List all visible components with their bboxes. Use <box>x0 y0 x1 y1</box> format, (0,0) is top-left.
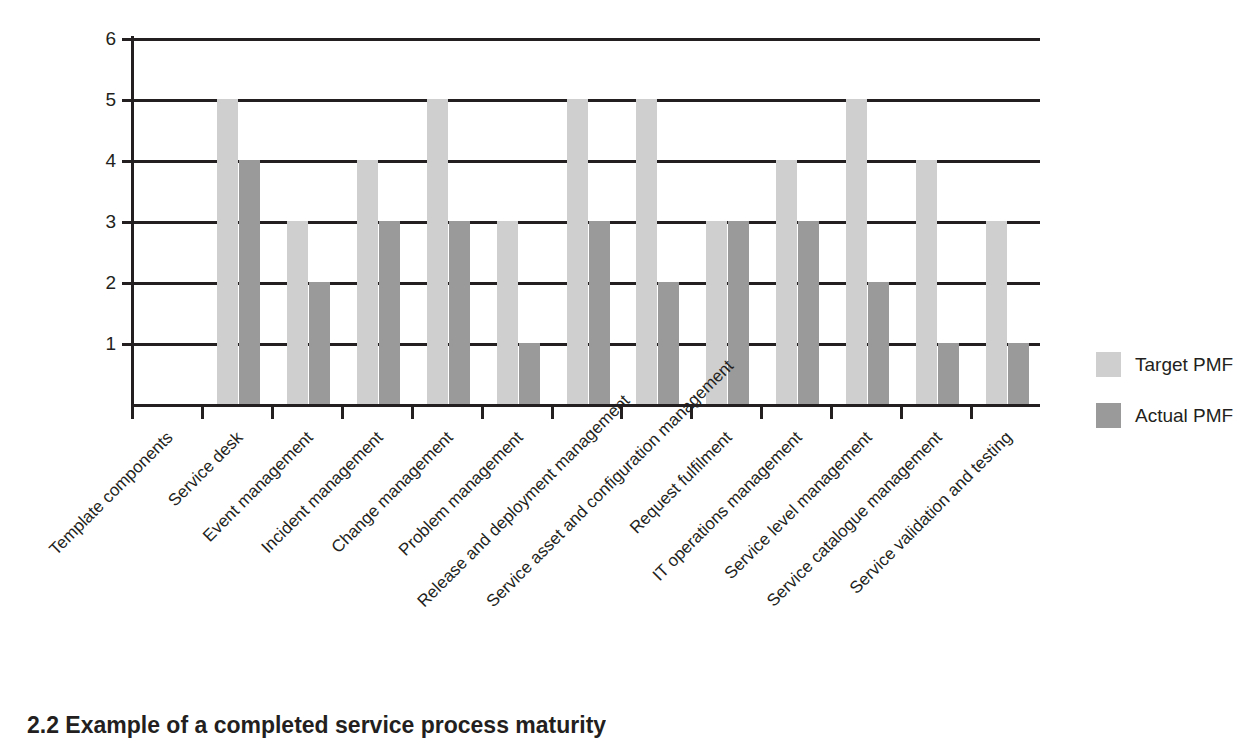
bar-target-10[interactable] <box>846 99 867 404</box>
x-tick-9 <box>760 407 763 419</box>
legend-swatch-target-pmf <box>1096 352 1121 377</box>
legend-item-actual-pmf[interactable]: Actual PMF <box>1096 403 1246 428</box>
legend-swatch-actual-pmf <box>1096 403 1121 428</box>
figure-caption: 2.2 Example of a completed service proce… <box>27 712 606 739</box>
bar-target-9[interactable] <box>776 160 797 404</box>
x-tick-1 <box>201 407 204 419</box>
y-tick-label-3: 3 <box>76 212 116 231</box>
chart-legend: Target PMF Actual PMF <box>1096 352 1246 454</box>
y-tick-label-6: 6 <box>76 29 116 48</box>
bar-target-3[interactable] <box>357 160 378 404</box>
x-tick-3 <box>341 407 344 419</box>
y-tick-label-4: 4 <box>76 151 116 170</box>
bar-actual-8[interactable] <box>728 221 749 404</box>
bar-actual-3[interactable] <box>379 221 400 404</box>
x-tick-10 <box>830 407 833 419</box>
chart-plot-area <box>131 36 1040 406</box>
x-tick-12 <box>970 407 973 419</box>
bar-target-4[interactable] <box>427 99 448 404</box>
bar-series-layer <box>131 36 1040 406</box>
bar-actual-10[interactable] <box>868 282 889 404</box>
x-tick-6 <box>551 407 554 419</box>
legend-item-target-pmf[interactable]: Target PMF <box>1096 352 1246 377</box>
bar-actual-7[interactable] <box>658 282 679 404</box>
bar-actual-1[interactable] <box>239 160 260 404</box>
bar-target-2[interactable] <box>287 221 308 404</box>
x-tick-11 <box>900 407 903 419</box>
bar-target-6[interactable] <box>567 99 588 404</box>
y-tick-label-2: 2 <box>76 273 116 292</box>
y-tick-label-5: 5 <box>76 90 116 109</box>
legend-label-target-pmf: Target PMF <box>1135 355 1233 374</box>
bar-actual-6[interactable] <box>589 221 610 404</box>
bar-target-11[interactable] <box>916 160 937 404</box>
bar-actual-2[interactable] <box>309 282 330 404</box>
bar-actual-9[interactable] <box>798 221 819 404</box>
bar-target-12[interactable] <box>986 221 1007 404</box>
bar-actual-5[interactable] <box>519 343 540 404</box>
y-tick-label-1: 1 <box>76 334 116 353</box>
bar-actual-12[interactable] <box>1008 343 1029 404</box>
x-tick-0 <box>131 407 134 419</box>
bar-target-1[interactable] <box>217 99 238 404</box>
x-tick-4 <box>411 407 414 419</box>
bar-target-7[interactable] <box>636 99 657 404</box>
figure-page: 123456 Template componentsService deskEv… <box>0 0 1246 739</box>
bar-target-5[interactable] <box>497 221 518 404</box>
bar-actual-11[interactable] <box>938 343 959 404</box>
bar-actual-4[interactable] <box>449 221 470 404</box>
x-tick-5 <box>481 407 484 419</box>
legend-label-actual-pmf: Actual PMF <box>1135 406 1233 425</box>
x-tick-2 <box>271 407 274 419</box>
